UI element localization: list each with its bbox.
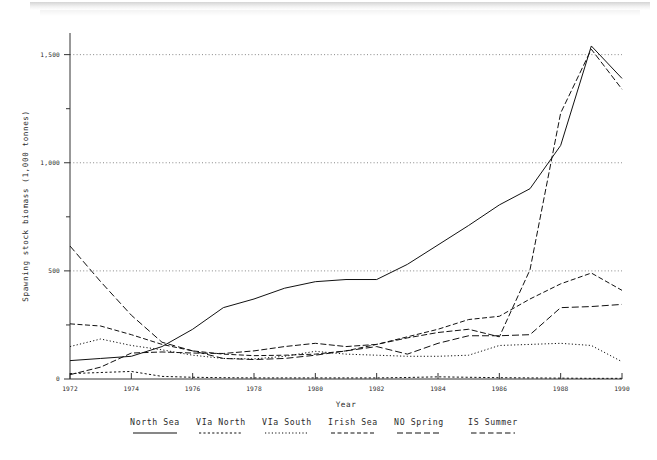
x-tick-label: 1976 <box>185 385 201 392</box>
x-axis-tick-labels: 1972197419761978198019821984198619881990 <box>62 385 630 392</box>
legend-label-via-south: VIa South <box>262 417 312 427</box>
series-line-via-south <box>70 339 622 362</box>
series-line-no-spring <box>70 49 622 374</box>
x-tick-label: 1988 <box>553 385 569 392</box>
series-line-is-summer <box>70 273 622 356</box>
legend-label-no-spring: NO Spring <box>394 417 444 427</box>
series-line-north-sea <box>70 46 622 361</box>
series-line-irish-sea <box>70 371 622 378</box>
x-tick-label: 1974 <box>123 385 139 392</box>
legend-label-is-summer: IS Summer <box>468 417 518 427</box>
x-tick-label: 1984 <box>430 385 446 392</box>
chart-legend: North SeaVIa NorthVIa SouthIrish SeaNO S… <box>130 417 518 433</box>
x-axis-title: Year <box>336 400 357 409</box>
y-tick-label: 1,500 <box>40 51 60 58</box>
x-tick-label: 1982 <box>369 385 385 392</box>
y-tick-label: 1,000 <box>40 159 60 166</box>
series-line-via-north <box>70 246 622 360</box>
series-layer <box>70 46 622 378</box>
legend-label-via-north: VIa North <box>196 417 246 427</box>
x-axis-ticks <box>70 373 622 379</box>
x-tick-label: 1972 <box>62 385 78 392</box>
figure-root: 05001,0001,500 1972197419761978198019821… <box>0 0 657 460</box>
y-axis-tick-labels: 05001,0001,500 <box>40 51 60 382</box>
x-tick-label: 1980 <box>307 385 323 392</box>
x-tick-label: 1986 <box>491 385 507 392</box>
x-tick-label: 1978 <box>246 385 262 392</box>
y-axis-title: Spawning stock biomass (1,000 tonnes) <box>21 110 30 301</box>
x-tick-label: 1990 <box>614 385 630 392</box>
y-tick-label: 0 <box>56 375 60 382</box>
legend-label-north-sea: North Sea <box>130 417 180 427</box>
line-chart: 05001,0001,500 1972197419761978198019821… <box>0 0 657 460</box>
y-axis-ticks <box>64 55 70 379</box>
gridlines <box>70 55 622 271</box>
y-tick-label: 500 <box>48 267 60 274</box>
legend-label-irish-sea: Irish Sea <box>328 417 378 427</box>
